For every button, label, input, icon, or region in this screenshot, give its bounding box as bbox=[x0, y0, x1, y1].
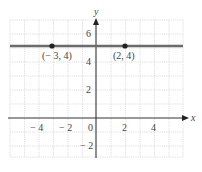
point-label: (− 3, 4) bbox=[42, 50, 72, 62]
x-axis bbox=[8, 115, 189, 121]
y-tick-label: 6 bbox=[86, 28, 91, 39]
data-point bbox=[49, 43, 54, 48]
x-tick-label: − 4 bbox=[30, 122, 43, 133]
y-tick-label: 2 bbox=[86, 84, 91, 95]
x-tick-label: − 2 bbox=[59, 122, 72, 133]
y-axis-arrow-icon bbox=[93, 18, 99, 25]
y-axis-label: y bbox=[93, 6, 99, 17]
x-tick-label: 4 bbox=[151, 122, 156, 133]
y-tick-label: 4 bbox=[86, 56, 91, 67]
data-point bbox=[122, 43, 127, 48]
coordinate-plane: x y − 4 − 2 0 2 4 6 4 2 − 2 (− 3, 4) (2,… bbox=[0, 0, 202, 172]
x-axis-label: x bbox=[190, 112, 196, 123]
y-axis bbox=[93, 18, 99, 158]
x-tick-label: 2 bbox=[122, 122, 127, 133]
x-axis-arrow-icon bbox=[182, 115, 189, 121]
x-tick-label: 0 bbox=[88, 122, 93, 133]
point-label: (2, 4) bbox=[113, 50, 135, 62]
y-tick-label: − 2 bbox=[80, 140, 93, 151]
